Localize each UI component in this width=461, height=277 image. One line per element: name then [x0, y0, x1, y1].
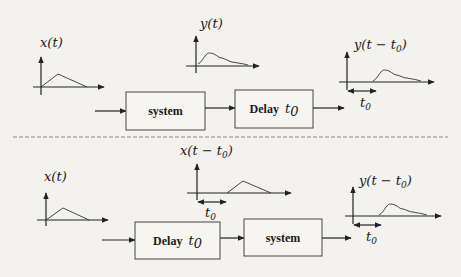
delayed-triangle-signal	[227, 181, 271, 193]
bottom-intermediate-shift-label: t0	[205, 205, 216, 222]
top-output-plot: y(t − t0) t0	[339, 37, 434, 112]
response-signal	[198, 53, 248, 65]
bottom-delay-block: Delay t0	[135, 222, 220, 259]
top-intermediate-label: y(t)	[199, 16, 223, 31]
bottom-output-label: y(t − t0)	[358, 173, 412, 190]
delayed-response-signal	[373, 70, 421, 81]
top-row: x(t) y(t) system Delay t0	[33, 16, 434, 130]
bottom-system-block: system	[244, 219, 322, 256]
time-invariance-diagram: x(t) y(t) system Delay t0	[0, 0, 461, 277]
bottom-input-label: x(t)	[44, 169, 67, 184]
triangle-signal	[46, 208, 89, 220]
top-shift-label: t0	[360, 95, 371, 112]
bottom-row: x(t) x(t − t0) t0 Delay t0	[37, 143, 441, 259]
top-system-block: system	[126, 92, 205, 130]
top-delay-block: Delay t0	[235, 90, 313, 128]
top-input-label: x(t)	[40, 35, 63, 50]
triangle-signal	[41, 74, 87, 87]
system-block-label: system	[148, 104, 183, 118]
system-block-label: system	[266, 231, 301, 245]
bottom-output-plot: y(t − t0) t0	[345, 173, 441, 246]
delayed-response-signal	[379, 204, 427, 215]
bottom-intermediate-plot: x(t − t0) t0	[180, 143, 291, 222]
bottom-intermediate-label: x(t − t0)	[180, 143, 233, 160]
bottom-input-plot: x(t)	[37, 169, 108, 226]
top-intermediate-plot: y(t)	[186, 16, 259, 73]
top-output-label: y(t − t0)	[353, 37, 407, 54]
bottom-shift-label: t0	[366, 229, 377, 246]
top-input-plot: x(t)	[33, 35, 104, 95]
